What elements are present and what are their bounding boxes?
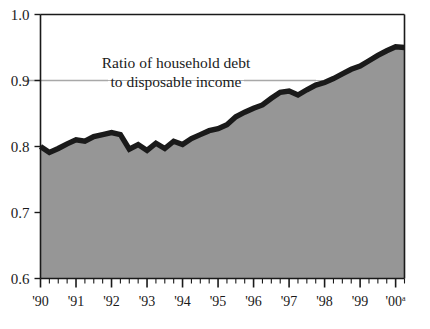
x-tick-footnote-marker: a — [402, 294, 406, 303]
x-tick-label: '95 — [210, 294, 227, 309]
y-tick-label: 0.7 — [11, 205, 30, 221]
x-tick-label: '92 — [103, 294, 120, 309]
chart-container: 1.00.90.80.70.6 '90'91'92'93'94'95'96'97… — [0, 0, 430, 329]
x-tick-label: '98 — [316, 294, 333, 309]
x-tick-label: '90 — [32, 294, 49, 309]
x-tick-label: '96 — [245, 294, 262, 309]
x-tick-label: '94 — [174, 294, 191, 309]
x-tick-label: '97 — [281, 294, 298, 309]
y-tick-label: 0.9 — [11, 73, 30, 89]
x-tick-label: '91 — [68, 294, 85, 309]
annotation-line-1: Ratio of household debt — [102, 54, 251, 71]
y-tick-label: 0.6 — [11, 271, 30, 287]
x-tick-label: '93 — [139, 294, 156, 309]
y-tick-label: 0.8 — [11, 139, 30, 155]
x-tick-label: '99 — [352, 294, 369, 309]
y-tick-label: 1.0 — [11, 7, 30, 23]
annotation-line-2: to disposable income — [111, 73, 242, 90]
household-debt-ratio-chart: 1.00.90.80.70.6 '90'91'92'93'94'95'96'97… — [0, 0, 430, 329]
